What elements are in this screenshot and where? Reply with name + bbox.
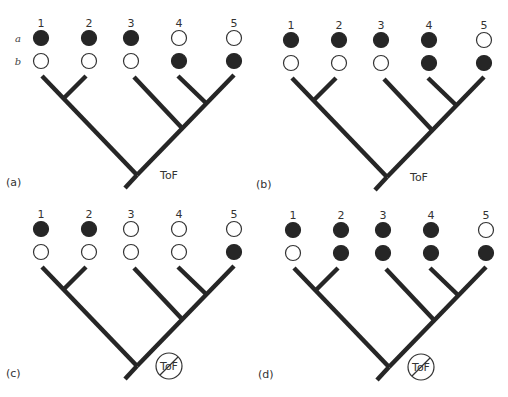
state-a-taxon-3-filled [124, 31, 139, 46]
state-b-taxon-2-empty [332, 56, 347, 71]
taxon-label-3: 3 [378, 19, 385, 32]
branch-taxon-2 [64, 76, 86, 98]
taxon-label-3: 3 [380, 209, 387, 222]
taxon-label-5: 5 [231, 17, 238, 30]
state-b-taxon-4-filled [424, 246, 439, 261]
branch-taxon-4 [428, 78, 456, 105]
taxon-label-2: 2 [336, 19, 343, 32]
state-b-taxon-5-filled [477, 56, 492, 71]
panel-label: (a) [6, 176, 21, 189]
branch-taxon-3 [386, 269, 434, 320]
branch-taxon-3 [134, 77, 182, 128]
branch-taxon-1 [42, 76, 137, 175]
state-a-taxon-4-empty [172, 31, 187, 46]
panel-label: (d) [258, 368, 274, 381]
state-a-taxon-2-filled [332, 33, 347, 48]
panel-d: 12345(d)ToF [258, 209, 494, 381]
state-a-taxon-5-empty [477, 33, 492, 48]
state-b-taxon-1-empty [34, 54, 49, 69]
taxon-label-1: 1 [290, 209, 297, 222]
row-label-b: b [15, 56, 21, 67]
state-a-taxon-1-filled [34, 31, 49, 46]
taxon-label-3: 3 [128, 17, 135, 30]
state-a-taxon-4-filled [424, 223, 439, 238]
state-b-taxon-4-filled [422, 56, 437, 71]
branch-taxon-2 [64, 267, 86, 289]
branch-taxon-4 [178, 267, 206, 294]
state-a-taxon-5-empty [479, 223, 494, 238]
state-a-taxon-2-filled [82, 31, 97, 46]
tof-label: ToF [159, 169, 178, 182]
state-a-taxon-3-filled [376, 223, 391, 238]
taxon-label-5: 5 [231, 208, 238, 221]
branch-taxon-1 [292, 78, 387, 177]
state-a-taxon-1-filled [286, 223, 301, 238]
state-b-taxon-3-empty [124, 54, 139, 69]
phylogeny-figure: 12345ab(a)ToF12345(b)ToF12345(c)ToF12345… [0, 0, 508, 397]
state-a-taxon-4-filled [422, 33, 437, 48]
taxon-label-2: 2 [338, 209, 345, 222]
state-b-taxon-5-filled [227, 54, 242, 69]
branch-taxon-5 [389, 267, 486, 367]
taxon-label-3: 3 [128, 208, 135, 221]
state-a-taxon-4-empty [172, 222, 187, 237]
state-a-taxon-3-filled [374, 33, 389, 48]
state-b-taxon-4-empty [172, 245, 187, 260]
branch-taxon-5 [387, 77, 484, 177]
branch-taxon-5 [137, 266, 234, 366]
state-a-taxon-1-filled [34, 222, 49, 237]
panel-label: (c) [6, 367, 21, 380]
branch-taxon-2 [314, 78, 336, 100]
state-b-taxon-2-empty [82, 54, 97, 69]
panel-label: (b) [256, 178, 272, 191]
panel-b: 12345(b)ToF [256, 19, 492, 191]
state-b-taxon-2-filled [334, 246, 349, 261]
tof-label: ToF [409, 171, 428, 184]
taxon-label-1: 1 [38, 208, 45, 221]
taxon-label-1: 1 [288, 19, 295, 32]
branch-taxon-3 [384, 79, 432, 130]
state-a-taxon-2-filled [82, 222, 97, 237]
taxon-label-4: 4 [426, 19, 433, 32]
branch-taxon-1 [294, 268, 389, 367]
branch-taxon-5 [137, 75, 234, 175]
taxon-label-5: 5 [481, 19, 488, 32]
root-stem [125, 366, 137, 379]
taxon-label-2: 2 [86, 208, 93, 221]
branch-taxon-2 [316, 268, 338, 290]
branch-taxon-4 [430, 268, 458, 295]
taxon-label-4: 4 [428, 209, 435, 222]
state-b-taxon-1-empty [284, 56, 299, 71]
state-b-taxon-3-filled [376, 246, 391, 261]
state-a-taxon-5-empty [227, 31, 242, 46]
taxon-label-4: 4 [176, 208, 183, 221]
taxon-label-2: 2 [86, 17, 93, 30]
state-b-taxon-1-empty [34, 245, 49, 260]
taxon-label-5: 5 [483, 209, 490, 222]
root-stem [377, 367, 389, 380]
panel-c: 12345(c)ToF [6, 208, 242, 380]
state-a-taxon-5-empty [227, 222, 242, 237]
state-a-taxon-2-filled [334, 223, 349, 238]
branch-taxon-4 [178, 76, 206, 103]
branch-taxon-1 [42, 267, 137, 366]
state-b-taxon-1-empty [286, 246, 301, 261]
state-b-taxon-5-filled [479, 246, 494, 261]
root-stem [125, 175, 137, 188]
state-b-taxon-4-filled [172, 54, 187, 69]
state-b-taxon-3-empty [374, 56, 389, 71]
taxon-label-1: 1 [38, 17, 45, 30]
row-label-a: a [15, 33, 21, 44]
panel-a: 12345ab(a)ToF [6, 17, 242, 189]
root-stem [375, 177, 387, 190]
taxon-label-4: 4 [176, 17, 183, 30]
state-a-taxon-1-filled [284, 33, 299, 48]
branch-taxon-3 [134, 268, 182, 319]
state-b-taxon-2-empty [82, 245, 97, 260]
state-b-taxon-5-filled [227, 245, 242, 260]
state-a-taxon-3-empty [124, 222, 139, 237]
state-b-taxon-3-empty [124, 245, 139, 260]
